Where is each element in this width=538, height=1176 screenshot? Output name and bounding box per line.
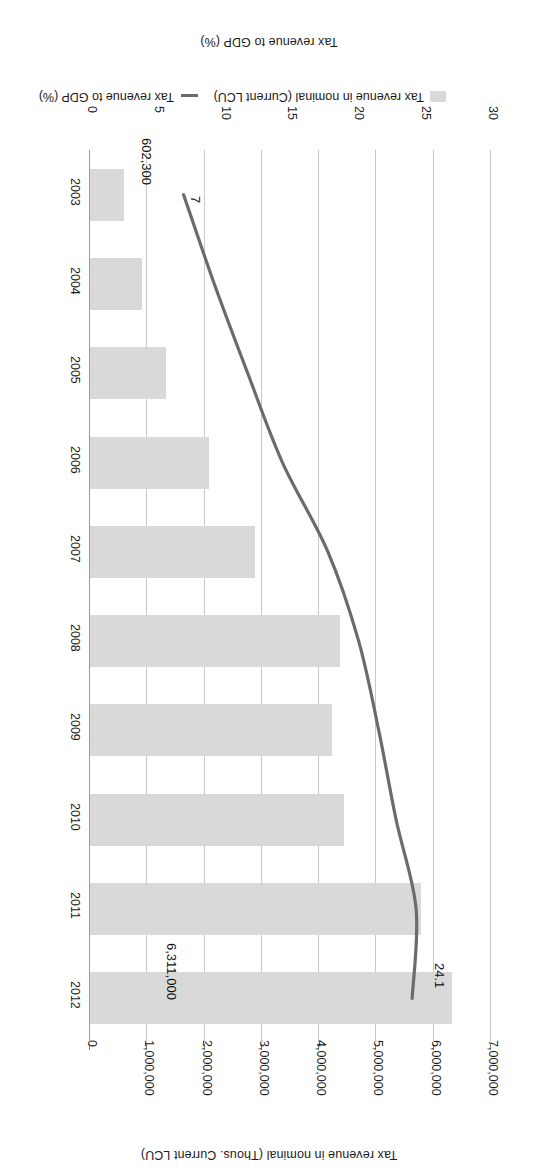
nominal-tick-label: 4,000,000 [314, 1040, 328, 1096]
nominal-tick-label: 5,000,000 [371, 1040, 385, 1096]
year-label: 2012 [68, 981, 82, 1009]
nominal-tick-label: 2,000,000 [200, 1040, 214, 1096]
gridline [490, 150, 491, 1043]
year-label: 2003 [68, 178, 82, 206]
bar [90, 794, 344, 846]
bar [90, 704, 332, 756]
line-series-path [184, 195, 417, 999]
axis-title-nominal: Tax revenue in nominal (Thous. Current L… [0, 1148, 538, 1162]
legend-swatch-bar-icon [430, 91, 446, 102]
gridline [433, 150, 434, 1043]
bar [90, 258, 142, 310]
chart-figure: Tax revenue in nominal (Thous. Current L… [0, 0, 538, 1176]
axis-title-gdp: Tax revenue to GDP (%) [0, 35, 538, 49]
bar [90, 169, 125, 221]
year-label: 2004 [68, 267, 82, 295]
legend-label-bars: Tax revenue in nominal (Current LCU) [213, 90, 424, 104]
bar-data-label-2003: 602,300 [139, 138, 154, 185]
year-label: 2011 [68, 892, 82, 919]
year-label: 2006 [68, 446, 82, 474]
plot-area: 6,311,000602,30024.17 [90, 150, 491, 1043]
nominal-tick-label: 7,000,000 [486, 1040, 500, 1096]
legend-label-line: Tax revenue to GDP (%) [39, 90, 174, 104]
year-label: 2009 [68, 713, 82, 741]
line-data-label-2012: 24.1 [432, 963, 447, 988]
bar [90, 972, 452, 1024]
legend-swatch-line-icon [181, 94, 198, 97]
nominal-tick-label: 6,000,000 [429, 1040, 443, 1096]
year-label: 2008 [68, 624, 82, 652]
bar [90, 347, 166, 399]
bar [90, 526, 255, 578]
bar-data-label-2012: 6,311,000 [164, 943, 179, 1000]
line-data-label-2003: 7 [188, 196, 203, 203]
chart-legend: Tax revenue in nominal (Current LCU) Tax… [0, 56, 538, 136]
bar [90, 615, 340, 667]
nominal-tick-label: 3,000,000 [257, 1040, 271, 1096]
year-label: 2007 [68, 535, 82, 563]
nominal-tick-label: 1,000,000 [142, 1040, 156, 1096]
bar [90, 883, 421, 935]
year-label: 2010 [68, 803, 82, 831]
bar [90, 437, 209, 489]
year-label: 2005 [68, 356, 82, 384]
